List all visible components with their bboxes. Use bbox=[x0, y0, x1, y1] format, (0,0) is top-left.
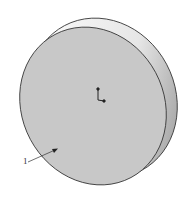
reference-label: 1 bbox=[23, 156, 28, 166]
disc-face bbox=[0, 1, 189, 202]
disc-diagram bbox=[0, 0, 189, 202]
